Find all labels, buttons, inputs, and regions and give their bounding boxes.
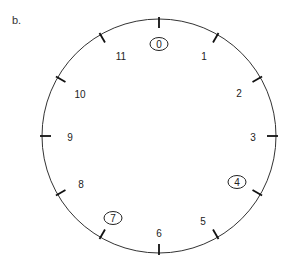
clock-number-8: 8 [78,179,84,190]
clock-numbers: 01234567891011 [67,38,256,239]
clock-number-7: 7 [110,213,116,224]
clock-number-10: 10 [74,89,86,100]
tick-mark-5 [213,230,219,240]
clock-number-1: 1 [201,51,207,62]
tick-mark-1 [213,33,219,43]
clock-number-3: 3 [250,132,256,143]
clock-circle [42,19,276,253]
tick-mark-4 [253,190,263,196]
clock-number-0: 0 [156,39,162,50]
clock-number-4: 4 [234,177,240,188]
clock-number-5: 5 [200,216,206,227]
clock-number-2: 2 [236,88,242,99]
clock-diagram: 01234567891011 [0,0,288,271]
tick-mark-11 [100,33,106,43]
tick-mark-2 [253,77,263,83]
clock-number-9: 9 [67,132,73,143]
tick-mark-7 [100,230,106,240]
tick-marks [40,17,278,255]
clock-number-11: 11 [116,51,127,62]
tick-mark-10 [56,77,66,83]
clock-number-6: 6 [156,228,162,239]
tick-mark-8 [56,190,66,196]
